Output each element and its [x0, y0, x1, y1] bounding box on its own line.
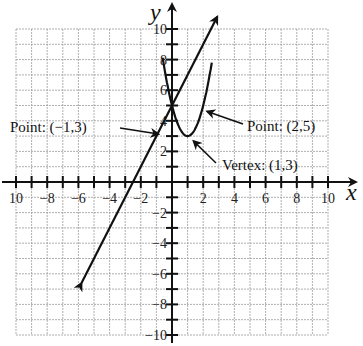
- x-tick-label: −8: [40, 191, 55, 206]
- annotation-arrow: [194, 141, 216, 163]
- axes: [2, 4, 356, 343]
- x-tick-label: 4: [231, 191, 238, 206]
- x-tick-label: 2: [200, 191, 207, 206]
- y-tick-label: 6: [160, 83, 167, 98]
- annotation-arrow: [207, 112, 243, 125]
- y-tick-label: −8: [152, 297, 167, 312]
- x-tick-label: −6: [71, 191, 86, 206]
- chart: 10−8−6−4−2246810108642−2−4−6−8−10 Point:…: [0, 0, 363, 346]
- annotation-label: Point: (−1,3): [10, 119, 87, 136]
- y-tick-label: −4: [152, 236, 167, 251]
- y-tick-label: 2: [160, 144, 167, 159]
- annotation-label: Vertex: (1,3): [222, 157, 298, 174]
- y-tick-label: −10: [145, 328, 167, 343]
- annotation-arrow: [120, 128, 158, 134]
- x-tick-label: 8: [293, 191, 300, 206]
- x-tick-label: −4: [102, 191, 117, 206]
- y-tick-label: −2: [152, 206, 167, 221]
- x-tick-label: 10: [9, 191, 23, 206]
- x-tick-label: 10: [321, 191, 335, 206]
- x-tick-label: 6: [262, 191, 269, 206]
- x-tick-label: −2: [133, 191, 148, 206]
- x-axis-label: x: [345, 179, 357, 205]
- y-axis-label: y: [148, 0, 161, 25]
- y-tick-label: −6: [152, 267, 167, 282]
- annotation-label: Point: (2,5): [247, 118, 315, 135]
